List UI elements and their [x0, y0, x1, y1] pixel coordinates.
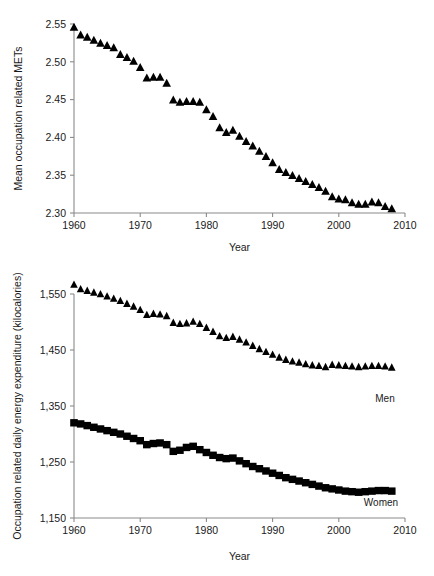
data-point-square — [375, 487, 383, 494]
x-tick-label: 1970 — [129, 524, 153, 536]
data-point-triangle — [248, 142, 257, 150]
data-point-triangle — [150, 310, 158, 317]
y-tick-label: 2.30 — [46, 207, 67, 219]
x-tick-label: 2010 — [393, 524, 417, 536]
data-point-triangle — [315, 362, 323, 369]
data-point-square — [203, 449, 211, 456]
data-point-triangle — [361, 362, 369, 369]
data-point-triangle — [388, 363, 396, 370]
x-tick-label: 1960 — [62, 524, 86, 536]
data-point-square — [309, 481, 317, 488]
data-point-square — [123, 433, 131, 440]
data-point-triangle — [163, 312, 171, 319]
data-point-square — [143, 441, 151, 448]
data-point-square — [302, 479, 310, 486]
data-point-square — [183, 444, 191, 451]
x-tick-label: 2000 — [327, 524, 351, 536]
y-tick-label: 2.35 — [46, 169, 67, 181]
energy-chart-svg: 1,1501,2501,3501,4501,550196019701980199… — [0, 272, 434, 576]
data-point-triangle — [83, 33, 92, 41]
data-point-square — [368, 487, 376, 494]
mets-chart-svg: 2.302.352.402.452.502.551960197019801990… — [0, 8, 434, 258]
data-point-triangle — [77, 285, 85, 292]
data-point-triangle — [110, 294, 118, 301]
data-point-triangle — [275, 353, 283, 360]
data-point-triangle — [262, 348, 270, 355]
data-point-square — [275, 472, 283, 479]
data-point-triangle — [196, 320, 204, 327]
figure-page: 2.302.352.402.452.502.551960197019801990… — [0, 0, 434, 576]
data-point-square — [97, 425, 105, 432]
x-tick-label: 1960 — [62, 219, 86, 231]
x-axis-title: Year — [229, 550, 251, 562]
series-men — [70, 280, 395, 370]
data-point-triangle — [109, 43, 118, 51]
data-point-triangle — [328, 192, 337, 200]
x-tick-label: 1980 — [195, 524, 219, 536]
data-point-triangle — [275, 165, 284, 173]
data-point-triangle — [375, 362, 383, 369]
data-point-triangle — [209, 112, 218, 120]
data-point-triangle — [117, 297, 125, 304]
data-point-triangle — [143, 311, 151, 318]
data-point-square — [229, 454, 237, 461]
data-point-square — [315, 482, 323, 489]
y-axis-title: Mean occupation related METs — [12, 46, 24, 190]
data-point-triangle — [176, 320, 184, 327]
data-point-triangle — [341, 195, 350, 203]
x-tick-label: 1990 — [261, 524, 285, 536]
data-point-triangle — [216, 332, 224, 339]
y-tick-label: 2.45 — [46, 93, 67, 105]
data-point-triangle — [222, 128, 231, 136]
data-point-square — [269, 470, 277, 477]
data-point-triangle — [374, 198, 383, 206]
data-point-triangle — [170, 319, 178, 326]
data-point-triangle — [282, 355, 290, 362]
data-point-square — [110, 429, 118, 436]
x-tick-label: 2000 — [327, 219, 351, 231]
data-point-square — [170, 448, 178, 455]
data-point-triangle — [169, 95, 178, 103]
x-tick-label: 1970 — [129, 219, 153, 231]
data-point-square — [328, 485, 336, 492]
data-point-triangle — [156, 310, 164, 317]
data-point-triangle — [295, 358, 303, 365]
data-point-triangle — [189, 97, 198, 105]
y-axis-title: Occupation related daily energy expendit… — [11, 272, 23, 539]
data-point-triangle — [249, 341, 257, 348]
data-point-triangle — [123, 299, 131, 306]
data-point-triangle — [195, 98, 204, 106]
data-point-square — [262, 467, 270, 474]
data-point-triangle — [70, 280, 78, 287]
data-point-square — [77, 420, 85, 427]
data-point-square — [348, 488, 356, 495]
data-point-triangle — [368, 362, 376, 369]
data-point-square — [83, 422, 91, 429]
data-point-square — [256, 465, 264, 472]
data-point-square — [242, 460, 250, 467]
data-point-triangle — [361, 200, 370, 208]
data-point-triangle — [368, 197, 377, 205]
data-point-triangle — [348, 362, 356, 369]
data-point-square — [222, 455, 230, 462]
y-tick-label: 1,550 — [40, 288, 66, 300]
data-point-square — [216, 454, 224, 461]
series-label-women: Women — [364, 497, 398, 508]
data-point-square — [150, 440, 158, 447]
x-tick-label: 1980 — [195, 219, 219, 231]
data-point-triangle — [222, 334, 230, 341]
data-point-triangle — [269, 350, 277, 357]
data-point-triangle — [289, 357, 297, 364]
data-point-square — [103, 427, 111, 434]
data-point-square — [163, 441, 171, 448]
x-tick-label: 1990 — [261, 219, 285, 231]
data-point-triangle — [97, 290, 105, 297]
data-point-triangle — [183, 319, 191, 326]
data-point-square — [342, 487, 350, 494]
data-point-square — [236, 457, 244, 464]
data-point-square — [289, 476, 297, 483]
y-tick-label: 1,150 — [40, 512, 66, 524]
data-point-square — [136, 437, 144, 444]
data-point-triangle — [203, 324, 211, 331]
y-tick-label: 1,450 — [40, 344, 66, 356]
